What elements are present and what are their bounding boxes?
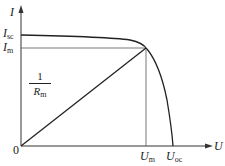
slope-den-sub: m <box>40 90 46 99</box>
y-axis-label: I <box>10 6 14 18</box>
um-label: Um <box>140 150 155 164</box>
x-axis-label: U <box>214 140 223 152</box>
isc-label-sub: sc <box>7 32 14 41</box>
slope-annotation: 1 Rm <box>29 70 51 101</box>
origin-label: 0 <box>13 144 19 156</box>
uoc-label-main: U <box>166 149 175 163</box>
isc-label: Isc <box>3 27 14 41</box>
im-label-sub: m <box>7 46 13 55</box>
slope-denominator: Rm <box>29 85 51 101</box>
x-axis-arrow-icon <box>205 144 213 149</box>
im-label: Im <box>3 41 13 55</box>
um-label-sub: m <box>149 155 155 164</box>
fraction-bar <box>29 83 51 84</box>
x-axis-label-text: U <box>214 139 223 153</box>
um-label-main: U <box>140 149 149 163</box>
uoc-label: Uoc <box>166 150 182 164</box>
y-axis-arrow-icon <box>19 5 24 13</box>
slope-numerator: 1 <box>29 70 51 82</box>
y-axis-label-text: I <box>10 5 14 19</box>
origin-label-text: 0 <box>13 143 19 157</box>
uoc-label-sub: oc <box>175 155 183 164</box>
